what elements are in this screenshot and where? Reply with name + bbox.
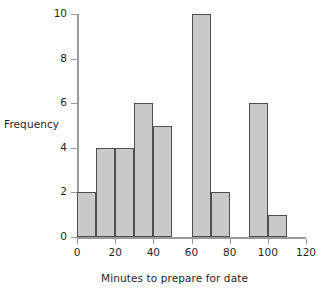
- x-axis-label-wrap: Minutes to prepare for date: [0, 272, 321, 284]
- x-axis-label: Minutes to prepare for date: [101, 272, 248, 284]
- histogram-bar: [192, 14, 211, 237]
- x-tick-0: [77, 239, 78, 244]
- histogram-bar: [153, 126, 172, 238]
- histogram-bar: [211, 192, 230, 237]
- x-tick-label-20: 20: [108, 246, 121, 258]
- y-axis-label: Frequency: [4, 118, 59, 130]
- y-tick-label-2: 2: [60, 185, 67, 197]
- y-tick-label-8: 8: [60, 52, 67, 64]
- y-tick-label-4: 4: [60, 141, 67, 153]
- histogram-bar: [249, 103, 268, 237]
- y-tick-0: 0: [71, 237, 77, 238]
- histogram-chart: Frequency Minutes to prepare for date 02…: [0, 0, 321, 297]
- x-tick-80: [230, 239, 231, 244]
- x-tick-label-0: 0: [74, 246, 81, 258]
- x-tick-label-60: 60: [185, 246, 198, 258]
- x-tick-60: [192, 239, 193, 244]
- plot-area: 0246810 020406080100120: [77, 14, 306, 239]
- histogram-bar: [96, 148, 115, 237]
- y-tick-label-10: 10: [54, 7, 67, 19]
- histogram-bar: [115, 148, 134, 237]
- x-tick-label-120: 120: [296, 246, 316, 258]
- bar-series: [77, 14, 306, 237]
- x-tick-label-80: 80: [223, 246, 236, 258]
- y-tick-label-0: 0: [60, 230, 67, 242]
- x-tick-120: [306, 239, 307, 244]
- x-tick-20: [115, 239, 116, 244]
- x-tick-40: [153, 239, 154, 244]
- x-tick-label-40: 40: [147, 246, 160, 258]
- y-tick-label-6: 6: [60, 96, 67, 108]
- histogram-bar: [268, 215, 287, 237]
- x-tick-label-100: 100: [258, 246, 278, 258]
- histogram-bar: [134, 103, 153, 237]
- histogram-bar: [77, 192, 96, 237]
- x-tick-100: [268, 239, 269, 244]
